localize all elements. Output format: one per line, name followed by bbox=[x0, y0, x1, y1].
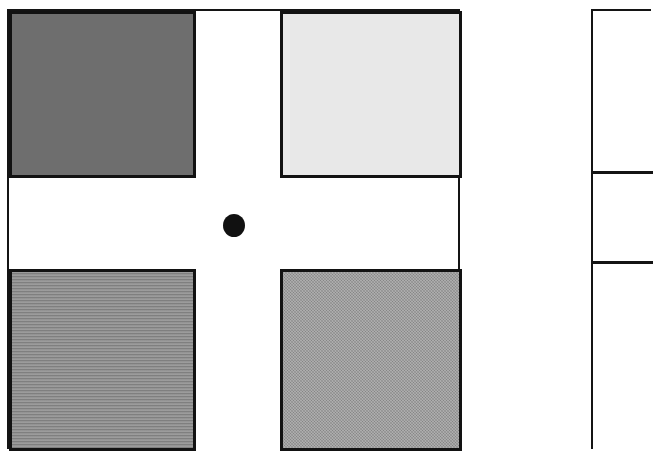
center-marker-label bbox=[223, 214, 224, 215]
side-table-cell-2-label bbox=[593, 174, 594, 175]
quadrant-bottom-left-label bbox=[12, 272, 13, 273]
quadrant-bottom-right-label bbox=[283, 272, 284, 273]
side-table bbox=[591, 9, 651, 449]
side-table-cell-2[interactable] bbox=[593, 174, 653, 264]
center-marker-dot-icon[interactable] bbox=[223, 214, 245, 237]
quadrant-top-left[interactable] bbox=[9, 11, 196, 178]
side-table-cell-3[interactable] bbox=[593, 264, 653, 454]
quadrant-panel bbox=[7, 9, 460, 449]
quadrant-top-left-label bbox=[12, 14, 13, 15]
quadrant-bottom-right[interactable] bbox=[280, 269, 462, 451]
side-table-cell-3-label bbox=[593, 264, 594, 265]
quadrant-top-right-label bbox=[283, 14, 284, 15]
side-table-cell-1-label bbox=[593, 11, 594, 12]
quadrant-top-right[interactable] bbox=[280, 11, 462, 178]
side-table-cell-1[interactable] bbox=[593, 11, 653, 174]
quadrant-bottom-left[interactable] bbox=[9, 269, 196, 451]
